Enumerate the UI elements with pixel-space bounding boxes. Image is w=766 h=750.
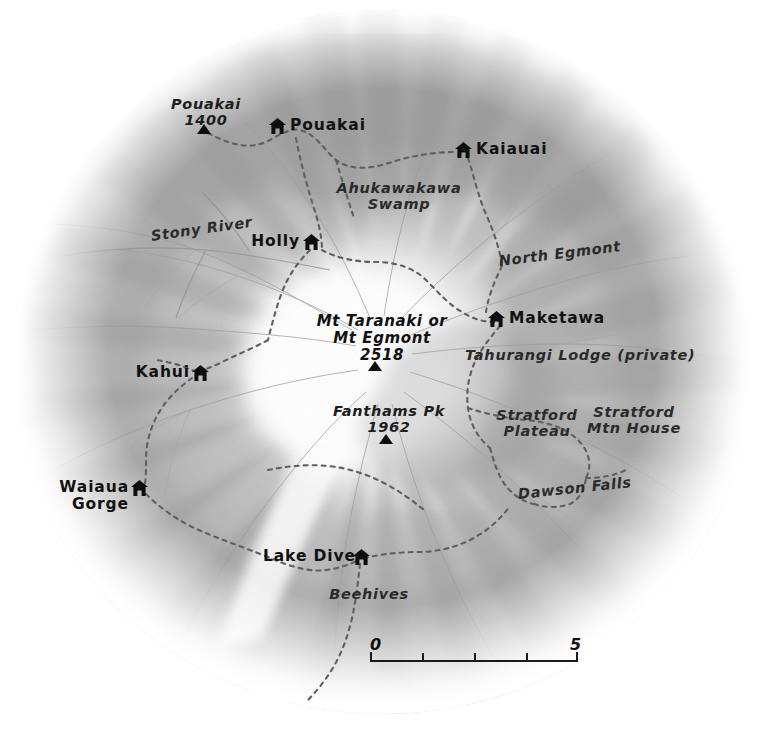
peak-name-fanthams: Fanthams Pk [333, 403, 445, 419]
peak-name-line1: Mt Taranaki or [317, 313, 448, 330]
hut-icon-pouakai[interactable] [269, 118, 286, 134]
feature-label-stony-river: Stony River [150, 214, 254, 244]
scale-bar-cap-end [576, 652, 578, 662]
hut-label-holly: Holly [251, 233, 300, 250]
summit-triangle-mt-taranaki [368, 361, 382, 371]
hut-label-kahui: Kahui [136, 364, 190, 381]
peak-label-fanthams-pk: Fanthams Pk 1962 [333, 403, 445, 435]
scale-bar-cap-start [370, 652, 372, 662]
hut-icon-maketawa[interactable] [488, 311, 505, 327]
hut-icon-kahui[interactable] [192, 365, 209, 381]
peak-name-pouakai: Pouakai [171, 96, 241, 112]
scale-bar-tick-1 [422, 653, 424, 661]
hut-icon-holly[interactable] [303, 234, 320, 250]
hut-label-kaiauai: Kaiauai [476, 141, 547, 158]
hut-icon-kaiauai[interactable] [455, 142, 472, 158]
hut-label-waiaua-gorge: Waiaua Gorge [59, 479, 129, 514]
stratford-plateau-line1: Stratford [496, 407, 577, 423]
peak-label-mt-taranaki: Mt Taranaki or Mt Egmont 2518 [317, 313, 448, 363]
feature-label-dawson-falls: Dawson Falls [517, 474, 632, 502]
hut-label-waiaua-line2: Gorge [59, 496, 129, 513]
stratford-mtn-house-line2: Mtn House [587, 420, 681, 436]
scale-bar: 0 5 [370, 646, 578, 676]
hut-label-pouakai: Pouakai [290, 117, 366, 134]
summit-triangle-fanthams-pk [379, 434, 393, 444]
scale-bar-tick-3 [526, 653, 528, 661]
ahukawakawa-line1: Ahukawakawa [337, 180, 462, 196]
stratford-mtn-house-line1: Stratford [587, 404, 681, 420]
feature-label-stratford-mtn-house: Stratford Mtn House [587, 404, 681, 436]
scale-label-start: 0 [370, 635, 381, 654]
stratford-plateau-line2: Plateau [496, 423, 577, 439]
hut-label-waiaua-line1: Waiaua [59, 479, 129, 496]
peak-name-line2: Mt Egmont [317, 330, 448, 347]
feature-label-tahurangi-lodge: Tahurangi Lodge (private) [465, 347, 695, 363]
peak-elevation-mt-taranaki: 2518 [317, 347, 448, 364]
feature-label-ahukawakawa-swamp: Ahukawakawa Swamp [337, 180, 462, 212]
hut-label-lake-dive: Lake Dive [263, 548, 356, 565]
relief-map: Pouakai 1400 Mt Taranaki or Mt Egmont 25… [0, 0, 766, 750]
feature-label-north-egmont: North Egmont [498, 238, 622, 269]
hut-label-maketawa: Maketawa [509, 310, 605, 327]
feature-label-stratford-plateau: Stratford Plateau [496, 407, 577, 439]
scale-bar-tick-2 [474, 653, 476, 661]
feature-label-beehives: Beehives [329, 586, 409, 602]
summit-triangle-pouakai [197, 124, 211, 134]
ahukawakawa-line2: Swamp [337, 196, 462, 212]
hut-icon-waiaua-gorge[interactable] [131, 480, 148, 496]
